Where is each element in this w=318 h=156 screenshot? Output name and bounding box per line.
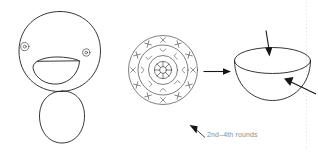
duck-right-eye [83,49,90,56]
hemisphere-bowl [235,48,311,101]
bowl-body [235,61,311,101]
illustration-svg [0,0,318,156]
transform-arrow-right [204,68,232,75]
duck-character [19,12,101,144]
disc-middle-ring [138,45,188,95]
disc-outer-stitch-marks [131,38,196,103]
bowl-rim-ellipse [235,48,311,74]
rounds-caption-label: 2nd–4th rounds [207,131,258,138]
disc-center-hub [154,61,171,78]
bowl-top-pointer-arrow [265,31,272,57]
duck-left-eye [21,43,29,51]
disc-outer-ring [129,36,198,105]
bowl-side-pointer-arrow [284,77,316,94]
crochet-round-disc [129,36,198,105]
duck-beak [33,57,79,84]
figure-canvas: 2nd–4th rounds [0,0,318,156]
duck-body [40,91,85,143]
caption-leader-arrow [190,125,206,138]
disc-inner-ring [149,56,178,85]
duck-head [19,12,101,92]
